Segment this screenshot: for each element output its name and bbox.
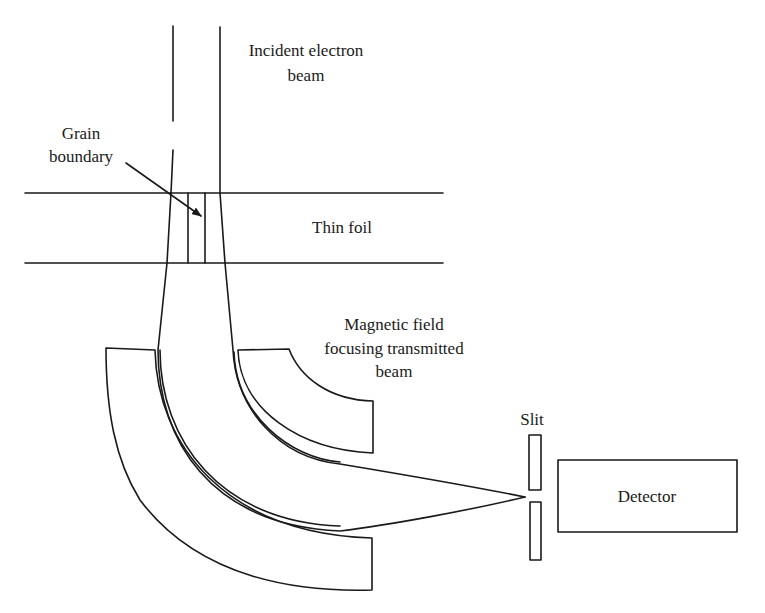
label-magnetic-field-1: Magnetic field [344, 315, 444, 334]
label-incident-beam-2: beam [288, 66, 325, 85]
label-magnetic-field-2: focusing transmitted [324, 339, 464, 358]
outer-pole-liner [160, 350, 340, 526]
label-grain-boundary-2: boundary [49, 147, 114, 166]
thin-foil [25, 193, 443, 263]
electron-beam-diagram: Incident electron beam Grain boundary Th… [0, 0, 765, 613]
beam-right-in-foil [220, 193, 225, 263]
label-incident-beam-1: Incident electron [249, 41, 364, 60]
transmitted-beam-lower-edge [158, 263, 525, 531]
grain-boundary-arrow [126, 163, 201, 216]
slit [529, 435, 541, 560]
beam-left-in-foil [167, 193, 171, 263]
incident-beam-left-edge-lower [171, 150, 173, 193]
slit-upper-jaw [529, 435, 541, 490]
label-detector: Detector [618, 487, 677, 506]
slit-lower-jaw [530, 502, 541, 560]
label-grain-boundary-1: Grain [62, 124, 101, 143]
label-thin-foil: Thin foil [312, 218, 372, 237]
incident-beam [171, 26, 220, 193]
label-magnetic-field-3: beam [376, 362, 413, 381]
magnetic-pole-piece-inner [238, 349, 373, 453]
label-slit: Slit [520, 410, 544, 429]
